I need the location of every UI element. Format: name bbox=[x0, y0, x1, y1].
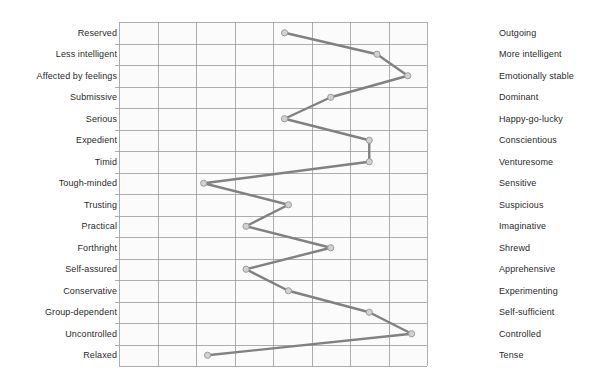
right-axis-label: More intelligent bbox=[499, 49, 562, 59]
right-axis-label: Emotionally stable bbox=[499, 71, 574, 81]
left-axis-label: Forthright bbox=[77, 243, 117, 253]
data-point-marker bbox=[374, 51, 380, 57]
right-axis-label: Experimenting bbox=[499, 286, 558, 296]
right-axis-label: Controlled bbox=[499, 329, 541, 339]
left-axis-label-column: ReservedLess intelligentAffected by feel… bbox=[0, 0, 117, 384]
left-axis-label: Practical bbox=[82, 221, 117, 231]
left-axis-label: Reserved bbox=[78, 28, 117, 38]
data-point-marker bbox=[243, 223, 249, 229]
right-axis-label: Outgoing bbox=[499, 28, 536, 38]
data-point-marker bbox=[405, 73, 411, 79]
data-point-marker bbox=[328, 245, 334, 251]
left-axis-label: Serious bbox=[86, 114, 117, 124]
left-axis-label: Conservative bbox=[63, 286, 117, 296]
left-axis-label: Group-dependent bbox=[45, 307, 117, 317]
right-axis-label: Tense bbox=[499, 350, 524, 360]
data-point-marker bbox=[281, 30, 287, 36]
data-point-marker bbox=[366, 159, 372, 165]
right-axis-label: Dominant bbox=[499, 92, 538, 102]
right-axis-label: Sensitive bbox=[499, 178, 536, 188]
left-axis-label: Submissive bbox=[70, 92, 117, 102]
personality-profile-chart: ReservedLess intelligentAffected by feel… bbox=[0, 0, 594, 384]
data-point-marker bbox=[366, 137, 372, 143]
left-axis-label: Self-assured bbox=[65, 264, 117, 274]
left-axis-label: Relaxed bbox=[83, 350, 117, 360]
right-axis-label: Suspicious bbox=[499, 200, 544, 210]
right-axis-label: Venturesome bbox=[499, 157, 553, 167]
right-axis-label: Happy-go-lucky bbox=[499, 114, 563, 124]
profile-series bbox=[119, 22, 427, 366]
data-point-marker bbox=[204, 352, 210, 358]
left-axis-label: Expedient bbox=[76, 135, 117, 145]
right-axis-label: Self-sufficient bbox=[499, 307, 554, 317]
right-axis-label: Apprehensive bbox=[499, 264, 555, 274]
plot-area bbox=[119, 22, 427, 366]
left-axis-label: Trusting bbox=[84, 200, 117, 210]
data-point-marker bbox=[201, 180, 207, 186]
left-axis-label: Tough-minded bbox=[59, 178, 117, 188]
data-point-marker bbox=[366, 309, 372, 315]
right-axis-label: Imaginative bbox=[499, 221, 546, 231]
right-axis-label: Shrewd bbox=[499, 243, 530, 253]
profile-line bbox=[204, 33, 412, 356]
data-point-marker bbox=[328, 94, 334, 100]
left-axis-label: Affected by feelings bbox=[37, 71, 117, 81]
data-point-marker bbox=[243, 266, 249, 272]
left-axis-label: Less intelligent bbox=[56, 49, 117, 59]
right-axis-label-column: OutgoingMore intelligentEmotionally stab… bbox=[499, 0, 594, 384]
data-point-marker bbox=[281, 116, 287, 122]
right-axis-label: Conscientious bbox=[499, 135, 557, 145]
data-point-marker bbox=[285, 202, 291, 208]
left-axis-label: Timid bbox=[95, 157, 117, 167]
left-axis-label: Uncontrolled bbox=[65, 329, 117, 339]
data-point-marker bbox=[285, 288, 291, 294]
data-point-marker bbox=[409, 331, 415, 337]
